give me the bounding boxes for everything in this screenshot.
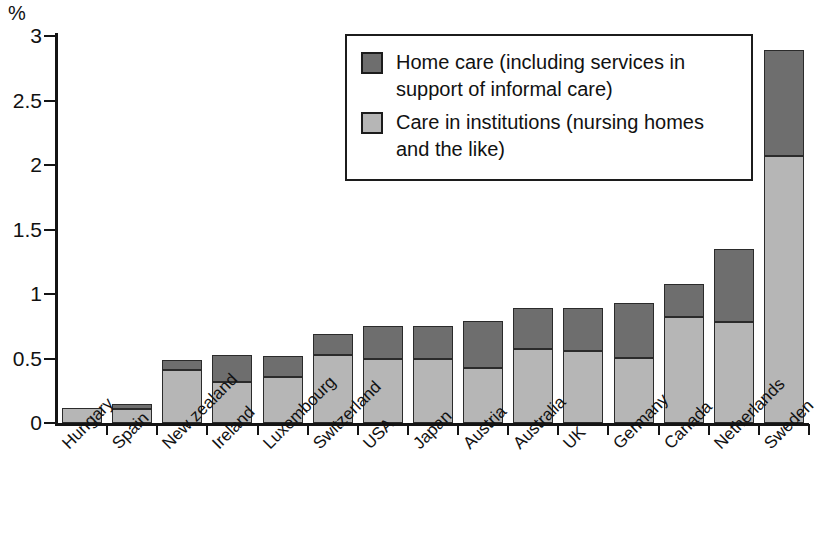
- x-axis-tick: [708, 424, 710, 435]
- y-axis-tick: [44, 293, 56, 295]
- x-axis-tick: [357, 424, 359, 435]
- bar-segment-home-care: [413, 326, 453, 358]
- bar-usa: [363, 326, 403, 423]
- bar-segment-home-care: [313, 334, 353, 355]
- bar-segment-home-care: [614, 303, 654, 358]
- x-axis-tick: [407, 424, 409, 435]
- legend-item-institutions: Care in institutions (nursing homes and …: [361, 109, 736, 163]
- x-axis-tick: [106, 424, 108, 435]
- x-axis-tick: [808, 424, 810, 435]
- y-axis-tick: [44, 35, 56, 37]
- y-axis-tick: [44, 100, 56, 102]
- bar-japan: [413, 326, 453, 423]
- y-axis-tick: [44, 358, 56, 360]
- y-axis-unit-label: %: [8, 2, 26, 25]
- x-axis-tick: [758, 424, 760, 435]
- bar-segment-institutions: [563, 351, 603, 423]
- y-axis-tick-label: 2: [0, 154, 42, 175]
- x-axis-label-uk: UK: [560, 423, 589, 452]
- y-axis-tick: [44, 229, 56, 231]
- bar-segment-home-care: [263, 356, 303, 377]
- y-axis-tick-label: 0.5: [0, 348, 42, 369]
- legend-label-institutions: Care in institutions (nursing homes and …: [396, 109, 736, 163]
- bar-netherlands: [714, 249, 754, 423]
- bar-segment-home-care: [513, 308, 553, 349]
- y-axis-tick: [44, 164, 56, 166]
- x-axis-tick: [457, 424, 459, 435]
- bar-segment-home-care: [714, 249, 754, 323]
- bar-segment-home-care: [162, 360, 202, 370]
- x-axis-tick: [658, 424, 660, 435]
- legend-label-home-care: Home care (including services in support…: [396, 49, 736, 103]
- x-axis-tick: [307, 424, 309, 435]
- x-axis-tick: [206, 424, 208, 435]
- bar-segment-home-care: [764, 50, 804, 156]
- y-axis-tick-label: 2.5: [0, 90, 42, 111]
- y-axis-tick-label: 0: [0, 412, 42, 433]
- bar-segment-home-care: [363, 326, 403, 358]
- bar-segment-home-care: [463, 321, 503, 367]
- y-axis-tick-label: 1.5: [0, 219, 42, 240]
- x-axis-tick: [156, 424, 158, 435]
- chart-legend: Home care (including services in support…: [345, 34, 753, 181]
- y-axis-tick-label: 1: [0, 283, 42, 304]
- y-axis-tick-label: 3: [0, 25, 42, 46]
- legend-swatch-home-care-icon: [361, 52, 383, 74]
- x-axis-tick: [257, 424, 259, 435]
- x-axis-tick: [607, 424, 609, 435]
- legend-item-home-care: Home care (including services in support…: [361, 49, 736, 103]
- bar-segment-home-care: [563, 308, 603, 351]
- x-axis-tick: [507, 424, 509, 435]
- y-axis-tick: [44, 422, 56, 424]
- x-axis-tick: [557, 424, 559, 435]
- legend-swatch-institutions-icon: [361, 112, 383, 134]
- bar-sweden: [764, 50, 804, 423]
- bar-segment-home-care: [664, 284, 704, 318]
